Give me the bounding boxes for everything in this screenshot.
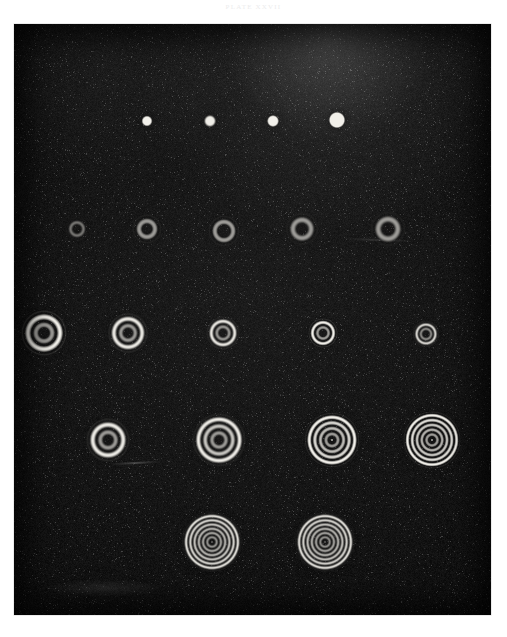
ring-pattern-r2-2 xyxy=(127,209,167,249)
ring-pattern-r5-2 xyxy=(282,499,369,586)
ring-pattern-r3-2 xyxy=(101,306,156,361)
ring-pattern-r3-1 xyxy=(14,302,75,364)
running-head: PLATE XXVII xyxy=(0,0,507,14)
ring-pattern-r3-3 xyxy=(201,311,246,356)
ring-pattern-r5-1 xyxy=(169,499,256,586)
ring-pattern-r4-4 xyxy=(390,398,474,482)
ring-pattern-r4-2 xyxy=(182,403,257,478)
ring-pattern-r4-1 xyxy=(79,411,138,470)
ring-pattern-r2-3 xyxy=(203,210,245,252)
ring-pattern-r1-1 xyxy=(134,108,160,134)
ring-pattern-r2-1 xyxy=(60,212,95,247)
ring-pattern-r3-5 xyxy=(407,315,446,354)
ring-pattern-r1-2 xyxy=(197,108,224,135)
ring-pattern-r3-4 xyxy=(302,312,344,354)
photographic-plate xyxy=(14,24,491,615)
ring-pattern-r2-5 xyxy=(366,207,411,252)
ring-pattern-r1-4 xyxy=(321,104,353,136)
ring-pattern-r2-4 xyxy=(281,208,324,251)
ring-pattern-r4-3 xyxy=(292,400,372,480)
page-canvas: PLATE XXVII xyxy=(0,0,507,637)
ring-pattern-r1-3 xyxy=(259,107,287,135)
